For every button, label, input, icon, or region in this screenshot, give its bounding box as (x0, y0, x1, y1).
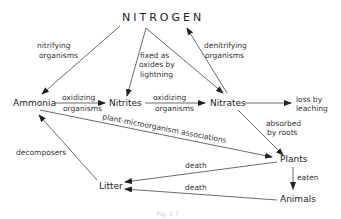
label-plant-microorganism: plant-microorganism associations (102, 112, 228, 145)
label-eaten: eaten (297, 173, 319, 182)
label-oxides-by: oxides by (139, 60, 175, 69)
label-organisms-b: organisms (155, 104, 194, 113)
node-animals: Animals (280, 194, 316, 204)
arrow-ammonia-to-plants (40, 110, 272, 157)
node-nitrogen: NITROGEN (122, 11, 204, 24)
arrow-nitrates-to-nitrogen (187, 28, 227, 93)
arrow-nitrogen-to-ammonia (42, 26, 120, 94)
label-lightning: lightning (140, 70, 173, 79)
figure-caption: Fig. 1.7 (157, 210, 179, 218)
label-organisms-a: organisms (63, 104, 102, 113)
label-nitrifying-organisms: organisms (39, 51, 78, 60)
label-loss-by: loss by (296, 95, 323, 104)
nitrogen-cycle-diagram: NITROGEN Ammonia Nitrites Nitrates Plant… (0, 0, 341, 219)
label-by-roots: by roots (267, 128, 298, 137)
label-fixed-as: fixed as (140, 51, 169, 60)
label-absorbed: absorbed (266, 119, 301, 128)
label-denitrifying: denitrifying (204, 41, 247, 50)
label-nitrifying: nitrifying (37, 41, 71, 50)
node-ammonia: Ammonia (13, 98, 56, 108)
node-nitrates: Nitrates (210, 98, 246, 108)
label-death-animals: death (185, 183, 207, 192)
label-decomposers: decomposers (16, 148, 66, 157)
label-denitrifying-organisms: organisms (205, 51, 244, 60)
label-oxidizing-b: oxidizing (153, 93, 186, 102)
label-oxidizing-a: oxidizing (62, 93, 95, 102)
node-nitrites: Nitrites (109, 98, 142, 108)
label-leaching: leaching (296, 104, 328, 113)
label-death-plants: death (185, 161, 207, 170)
node-litter: Litter (99, 181, 123, 191)
node-plants: Plants (280, 154, 308, 164)
